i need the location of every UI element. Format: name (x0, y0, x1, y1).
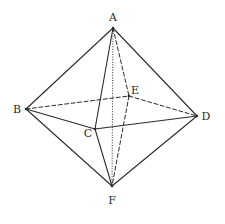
octahedron-diagram: A B C D E F (0, 0, 225, 224)
vertex-point-f (111, 185, 114, 188)
vertex-label-a: A (108, 11, 118, 24)
edge-ab (26, 28, 113, 109)
labels-group: A B C D E F (13, 11, 211, 207)
edge-cf (95, 129, 112, 186)
vertex-label-c: C (84, 127, 92, 140)
vertices-group (25, 27, 199, 188)
edge-af (112, 28, 113, 186)
edges-group (26, 28, 197, 186)
edge-ad (113, 28, 197, 116)
vertex-point-d (196, 115, 199, 118)
edge-ae (113, 28, 129, 96)
vertex-point-a (112, 27, 115, 30)
vertex-label-f: F (108, 194, 116, 207)
edge-cd (95, 116, 197, 129)
edge-df (112, 116, 197, 186)
vertex-label-b: B (13, 103, 21, 116)
edge-be (26, 96, 129, 109)
vertex-label-e: E (131, 84, 139, 97)
vertex-point-b (25, 108, 28, 111)
vertex-label-d: D (202, 110, 211, 123)
edge-bf (26, 109, 112, 186)
vertex-point-c (94, 128, 97, 131)
edge-ef (112, 96, 129, 186)
vertex-point-e (128, 95, 131, 98)
edge-ac (95, 28, 113, 129)
